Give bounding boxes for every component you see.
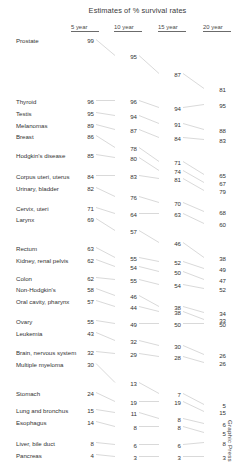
value-cell: 55	[74, 318, 94, 325]
value-cell: 57	[74, 298, 94, 305]
row-label: Non-Hodgkin's	[16, 286, 56, 293]
value-cell: 6	[117, 442, 137, 449]
value-cell: 26	[206, 360, 226, 367]
value-cell: 52	[161, 259, 181, 266]
value-cell: 62	[74, 275, 94, 282]
slope-line	[96, 301, 115, 307]
slope-line	[183, 105, 204, 108]
slope-line	[96, 155, 115, 158]
row-label: Colon	[16, 275, 32, 282]
value-cell: 3	[117, 454, 137, 461]
slope-line	[96, 278, 115, 280]
row-label: Multiple myeloma	[16, 361, 63, 368]
slope-line	[183, 307, 204, 313]
row-label: Brain, nervous system	[16, 349, 76, 356]
value-cell: 8	[161, 424, 181, 431]
slope-line	[96, 364, 115, 383]
value-cell: 28	[161, 354, 181, 361]
slope-line	[96, 443, 115, 445]
slope-line	[139, 413, 159, 419]
value-cell: 87	[117, 127, 137, 134]
value-cell: 91	[161, 121, 181, 128]
value-cell: 8	[206, 440, 226, 447]
slope-line	[183, 312, 204, 320]
slope-line	[139, 148, 159, 162]
slope-line	[183, 74, 204, 89]
value-cell: 49	[117, 321, 137, 328]
value-cell: 86	[74, 133, 94, 140]
slope-line	[139, 130, 159, 138]
value-cell: 43	[74, 330, 94, 337]
value-cell: 24	[74, 390, 94, 397]
value-cell: 8	[161, 416, 181, 423]
slope-line	[183, 419, 204, 424]
value-cell: 19	[161, 399, 181, 406]
value-cell: 58	[74, 286, 94, 293]
value-cell: 3	[161, 454, 181, 461]
slope-line	[96, 393, 115, 402]
column-header-4: 20 year	[203, 24, 231, 32]
slope-line	[96, 352, 115, 354]
value-cell: 5	[206, 430, 226, 437]
value-cell: 83	[206, 137, 226, 144]
value-cell: 82	[74, 185, 94, 192]
row-label: Stomach	[16, 390, 40, 397]
value-cell: 89	[74, 122, 94, 129]
row-label: Hodgkin's disease	[16, 152, 65, 159]
value-cell: 57	[117, 228, 137, 235]
row-label: Oral cavity, pharynx	[16, 298, 69, 305]
slope-line	[183, 346, 204, 355]
value-cell: 5	[206, 402, 226, 409]
value-cell: 38	[161, 309, 181, 316]
slope-line	[96, 113, 115, 116]
value-cell: 49	[206, 266, 226, 273]
value-cell: 32	[117, 338, 137, 345]
row-label: Ovary	[16, 318, 32, 325]
slope-line	[96, 333, 115, 341]
slope-line	[96, 422, 115, 427]
value-cell: 55	[117, 255, 137, 262]
value-cell: 71	[74, 205, 94, 212]
value-cell: 52	[206, 286, 226, 293]
value-cell: 50	[161, 321, 181, 328]
slope-line	[183, 272, 204, 280]
slope-line	[139, 176, 159, 179]
slope-line	[96, 321, 115, 324]
slope-line	[139, 341, 159, 346]
row-label: Melanomas	[16, 122, 48, 129]
slope-line	[183, 357, 204, 363]
value-cell: 96	[117, 98, 137, 105]
slope-line	[96, 219, 115, 231]
value-cell: 54	[161, 282, 181, 289]
slope-line	[96, 40, 115, 56]
value-cell: 79	[206, 188, 226, 195]
row-label: Rectum	[16, 245, 37, 252]
value-cell: 60	[206, 221, 226, 228]
slope-line	[183, 443, 204, 445]
value-cell: 81	[161, 176, 181, 183]
slope-line	[96, 289, 115, 296]
chart-title: Estimates of % survival rates	[0, 6, 235, 15]
value-cell: 6	[161, 442, 181, 449]
slope-line	[139, 258, 159, 262]
value-cell: 65	[206, 172, 226, 179]
value-cell: 34	[206, 310, 226, 317]
column-header-2: 10 year	[114, 24, 142, 32]
credit-text: Graphic Press	[227, 420, 234, 462]
value-cell: 30	[74, 361, 94, 368]
value-cell: 8	[117, 424, 137, 431]
slope-line	[183, 138, 204, 140]
slope-line	[139, 280, 159, 285]
value-cell: 19	[117, 399, 137, 406]
slope-line	[139, 158, 159, 171]
value-cell: 69	[74, 216, 94, 223]
slope-line	[183, 285, 204, 289]
slope-line	[139, 307, 159, 312]
slope-line	[96, 208, 115, 214]
value-cell: 13	[117, 380, 137, 387]
slope-line	[139, 56, 159, 74]
slope-line	[139, 231, 159, 243]
slope-line	[183, 262, 204, 269]
slope-line	[183, 427, 204, 433]
value-cell: 68	[206, 209, 226, 216]
